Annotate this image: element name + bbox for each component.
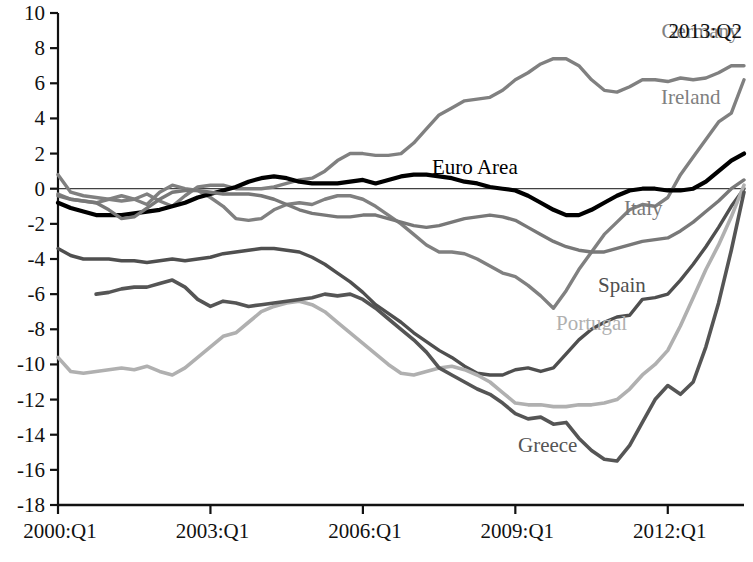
y-tick-label: 10 [24, 1, 45, 25]
y-tick-label: 4 [35, 106, 46, 130]
y-tick-label: -10 [17, 352, 45, 376]
y-tick-label: 6 [35, 71, 46, 95]
series-label-ireland: Ireland [661, 85, 721, 109]
chart-container: 1086420-2-4-6-8-10-12-14-16-18 2000:Q120… [0, 0, 753, 562]
series-label-portugal: Portugal [556, 311, 627, 335]
x-tick-label: 2006:Q1 [328, 519, 402, 543]
y-tick-label: 8 [35, 36, 46, 60]
x-tick-label: 2009:Q1 [481, 519, 555, 543]
series-line-germany [58, 59, 744, 207]
y-tick-label: -16 [17, 458, 45, 482]
y-tick-label: 0 [35, 177, 46, 201]
series-line-greece [96, 192, 744, 461]
y-tick-label: -14 [17, 423, 45, 447]
series-label-greece: Greece [518, 433, 577, 457]
series-label-spain: Spain [598, 273, 646, 297]
y-tick-label: -4 [28, 247, 46, 271]
y-tick-label: -12 [17, 388, 45, 412]
x-tick-label: 2012:Q1 [633, 519, 707, 543]
series-label-italy: Italy [624, 196, 663, 220]
line-chart: 1086420-2-4-6-8-10-12-14-16-18 2000:Q120… [0, 0, 753, 562]
series-label-euro-area: Euro Area [432, 155, 518, 179]
y-tick-label: -18 [17, 493, 45, 517]
y-axis-ticks: 1086420-2-4-6-8-10-12-14-16-18 [17, 1, 58, 517]
x-tick-label: 2000:Q1 [23, 519, 97, 543]
x-axis-ticks: 2000:Q12003:Q12006:Q12009:Q12012:Q1 [23, 505, 706, 543]
x-tick-label: 2003:Q1 [176, 519, 250, 543]
data-series-group [58, 59, 744, 461]
corner-annotation-label: 2013:Q2 [669, 19, 743, 43]
y-tick-label: -6 [28, 282, 46, 306]
y-tick-label: -8 [28, 317, 46, 341]
y-tick-label: -2 [28, 212, 46, 236]
y-tick-label: 2 [35, 142, 46, 166]
